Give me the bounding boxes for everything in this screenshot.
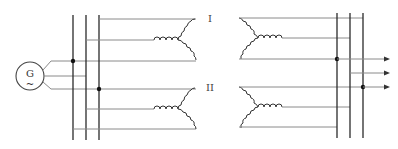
transformer-2-label: II: [206, 82, 214, 93]
arrow-icon: [384, 71, 390, 76]
transformer-1-secondary: [239, 18, 282, 59]
transformer-1-label: I: [208, 13, 212, 24]
left-busbar: [71, 15, 101, 140]
schematic: G ~ I II: [0, 0, 398, 149]
generator: G ~: [16, 62, 44, 90]
transformer-2-secondary: [239, 87, 282, 128]
right-busbar: [335, 13, 365, 138]
arrow-icon: [384, 57, 390, 62]
generator-leads: [43, 61, 196, 89]
generator-ac-symbol: ~: [26, 78, 34, 89]
transformer-2-primary: [154, 88, 196, 129]
right-wires: [239, 18, 363, 127]
left-wires: [73, 19, 196, 129]
arrow-icon: [384, 85, 390, 90]
transformer-1-primary: [154, 19, 196, 60]
junction-dot: [97, 87, 101, 91]
junction-dot: [71, 59, 75, 63]
